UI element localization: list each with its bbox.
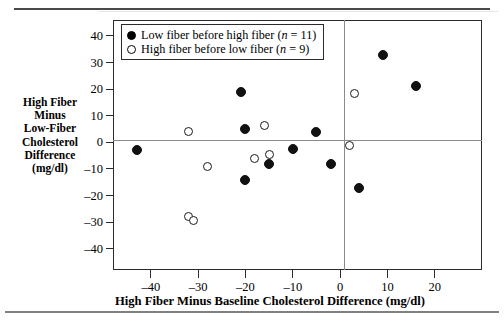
x-tick-label: –30 [176, 280, 220, 294]
figure-bottom-rule [5, 311, 499, 313]
y-tick-mark [106, 89, 114, 90]
y-tick-mark [106, 222, 114, 223]
x-tick-label: 10 [365, 280, 409, 294]
y-tick-mark [106, 35, 114, 36]
y-axis-title-line: Low-Fiber [6, 122, 94, 135]
open-circle-icon [127, 45, 136, 54]
x-tick-mark [198, 270, 199, 278]
y-tick-label: –20 [58, 190, 103, 202]
y-tick-label: 40 [58, 30, 103, 42]
y-tick-mark [106, 195, 114, 196]
y-axis-title-line: Difference [6, 149, 94, 162]
y-axis-title-line: High Fiber [6, 96, 94, 109]
y-tick-mark [106, 115, 114, 116]
legend-item-high-fiber-first: High fiber before low fiber (n = 9) [127, 42, 316, 56]
data-point-low-fiber-first [264, 159, 274, 169]
x-tick-mark [245, 270, 246, 278]
y-tick-label: 10 [58, 110, 103, 122]
data-point-low-fiber-first [326, 159, 336, 169]
x-tick-mark [387, 270, 388, 278]
y-tick-label: 0 [58, 136, 103, 148]
legend-item-label: High fiber before low fiber (n = 9) [141, 43, 309, 56]
data-point-low-fiber-first [288, 144, 298, 154]
data-point-high-fiber-first [265, 150, 274, 159]
x-tick-label: 0 [318, 280, 362, 294]
filled-circle-icon [127, 31, 136, 40]
y-tick-label: –30 [58, 216, 103, 228]
figure-top-rule [14, 8, 490, 10]
y-tick-mark [106, 248, 114, 249]
zero-horizontal-reference-line [113, 140, 482, 141]
y-tick-mark [106, 142, 114, 143]
x-tick-label: –40 [129, 280, 173, 294]
x-tick-label: –20 [223, 280, 267, 294]
data-point-low-fiber-first [378, 50, 388, 60]
data-point-low-fiber-first [132, 145, 142, 155]
x-tick-mark [150, 270, 151, 278]
data-point-low-fiber-first [236, 87, 246, 97]
y-tick-label: –40 [58, 243, 103, 255]
y-tick-mark [106, 168, 114, 169]
x-axis-title: High Fiber Minus Baseline Cholesterol Di… [60, 294, 480, 308]
x-tick-mark [340, 270, 341, 278]
legend: Low fiber before high fiber (n = 11) Hig… [121, 24, 324, 60]
x-tick-label: –10 [271, 280, 315, 294]
y-tick-label: 20 [58, 83, 103, 95]
data-point-high-fiber-first [203, 162, 212, 171]
y-tick-label: 30 [58, 57, 103, 69]
data-point-low-fiber-first [354, 183, 364, 193]
data-point-high-fiber-first [345, 141, 354, 150]
figure-container: High Fiber Minus Low-Fiber Cholesterol D… [0, 0, 504, 321]
y-tick-label: –10 [58, 163, 103, 175]
x-tick-mark [434, 270, 435, 278]
y-tick-mark [106, 62, 114, 63]
data-point-high-fiber-first [350, 89, 359, 98]
x-tick-mark [292, 270, 293, 278]
figure-top-faint-rule [98, 11, 498, 12]
data-point-high-fiber-first [260, 121, 269, 130]
legend-item-label: Low fiber before high fiber (n = 11) [141, 29, 316, 42]
legend-item-low-fiber-first: Low fiber before high fiber (n = 11) [127, 28, 316, 42]
x-tick-label: 20 [413, 280, 457, 294]
